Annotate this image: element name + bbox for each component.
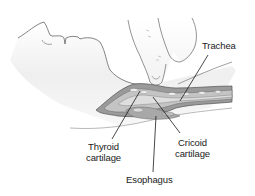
label-cricoid-line1: Cricoid bbox=[175, 137, 210, 148]
label-trachea: Trachea bbox=[202, 40, 236, 51]
label-thyroid-cartilage: Thyroid cartilage bbox=[86, 141, 121, 163]
label-trachea-text: Trachea bbox=[202, 40, 236, 51]
leader-esophagus bbox=[153, 116, 156, 172]
hand-applying-pressure bbox=[128, 18, 197, 85]
label-thyroid-line2: cartilage bbox=[86, 152, 121, 163]
label-esophagus-text: Esophagus bbox=[126, 174, 173, 185]
cricoid-pressure-illustration bbox=[0, 0, 255, 196]
label-cricoid-cartilage: Cricoid cartilage bbox=[175, 137, 210, 159]
label-thyroid-line1: Thyroid bbox=[86, 141, 121, 152]
label-esophagus: Esophagus bbox=[126, 174, 173, 185]
label-cricoid-line2: cartilage bbox=[175, 148, 210, 159]
esophagus-lumen bbox=[133, 108, 143, 112]
